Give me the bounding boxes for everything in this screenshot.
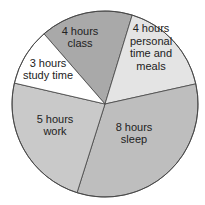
slice-label-study: 3 hoursstudy time (23, 57, 73, 82)
pie-chart: 4 hoursclass4 hourspersonaltime andmeals… (0, 0, 205, 205)
